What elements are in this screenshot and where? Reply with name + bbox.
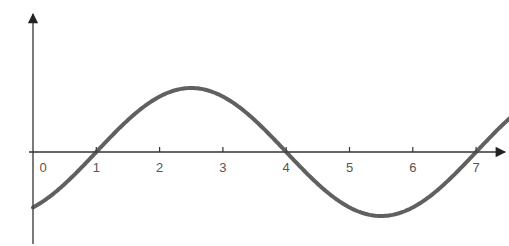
x-tick-label: 2: [156, 160, 163, 175]
sine-chart: 01234567: [0, 0, 509, 246]
x-tick-label: 1: [93, 160, 100, 175]
x-tick-label: 6: [409, 160, 416, 175]
x-tick-label: 3: [219, 160, 226, 175]
x-tick-label: 5: [346, 160, 353, 175]
x-tick-label: 7: [472, 160, 479, 175]
x-axis-tick-labels: 01234567: [39, 160, 479, 175]
x-tick-label: 0: [39, 160, 46, 175]
x-tick-label: 4: [283, 160, 290, 175]
